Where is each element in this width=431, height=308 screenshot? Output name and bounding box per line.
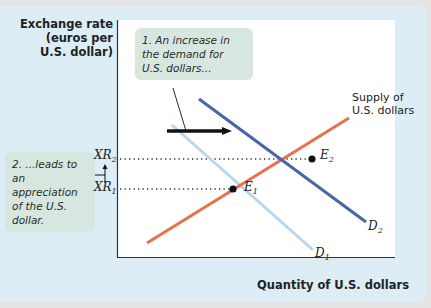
demand-curve-d1 (172, 125, 313, 250)
callout-demand-increase: 1. An increase in the demand for U.S. do… (135, 28, 253, 80)
supply-label-line-2: U.S. dollars (352, 104, 414, 117)
xr1-label: XR1 (94, 180, 117, 196)
equilibrium-e1-dot (229, 185, 236, 192)
xr2-label: XR2 (94, 148, 117, 164)
shift-arrow-head-icon (222, 127, 232, 135)
d2-label: D2 (368, 219, 383, 235)
xr-arrow-head-icon (103, 164, 108, 169)
e2-label: E2 (320, 148, 334, 164)
supply-label: Supply of U.S. dollars (352, 91, 414, 117)
supply-label-line-1: Supply of (352, 91, 414, 104)
d1-label: D1 (315, 246, 330, 262)
callout-appreciation: 2. ...leads to an appreciation of the U.… (5, 152, 95, 232)
demand-curve-d2 (199, 99, 366, 222)
equilibrium-e2-dot (308, 155, 315, 162)
x-axis-label: Quantity of U.S. dollars (257, 278, 409, 292)
callout-1-leader (173, 88, 186, 131)
e1-label: E1 (244, 180, 258, 196)
